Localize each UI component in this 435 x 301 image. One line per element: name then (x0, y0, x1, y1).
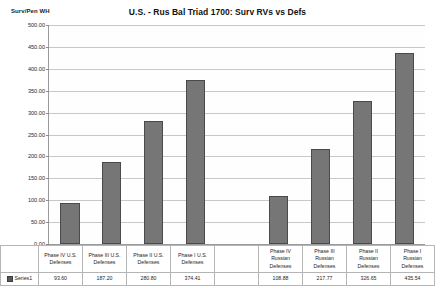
bar-slot (133, 25, 175, 244)
y-axis-tick-label: 100.00 (28, 197, 45, 203)
y-axis-tick-label: 200.00 (28, 153, 45, 159)
chart-title: U.S. - Rus Bal Triad 1700: Surv RVs vs D… (0, 7, 435, 17)
bar-slot (216, 25, 258, 244)
table-category-cell (215, 246, 259, 273)
table-value-cell: 108.88 (259, 273, 303, 286)
table-category-cell: Phase IVRussianDefenses (259, 246, 303, 273)
bar[interactable] (102, 162, 121, 244)
table-category-cell: Phase IV U.S.Defenses (39, 246, 83, 273)
bar[interactable] (60, 203, 79, 244)
y-axis-tick-label: 450.00 (28, 44, 45, 50)
table-value-cell: 374.41 (171, 273, 215, 286)
y-axis-tick-label: 250.00 (28, 132, 45, 138)
table-value-cell: 187.20 (83, 273, 127, 286)
plot-area: 0.0050.00100.00150.00200.00250.00300.003… (48, 25, 425, 245)
table-value-cell: 326.65 (347, 273, 391, 286)
table-category-cell: Phase III U.S.Defenses (83, 246, 127, 273)
table-category-cell: Phase II U.S.Defenses (127, 246, 171, 273)
bar-slot (341, 25, 383, 244)
table-category-cell: Phase IIIRussianDefenses (303, 246, 347, 273)
table-value-cell: 280.80 (127, 273, 171, 286)
bar-slot (91, 25, 133, 244)
bar[interactable] (395, 53, 414, 244)
bar[interactable] (353, 101, 372, 244)
y-axis-tick-label: 150.00 (28, 175, 45, 181)
bar[interactable] (144, 121, 163, 244)
y-axis-tick-label: 300.00 (28, 110, 45, 116)
table-row-values: Series1 93.60187.20280.80374.41108.88217… (1, 273, 435, 286)
bar[interactable] (269, 196, 288, 244)
bar-series (49, 25, 425, 244)
chart-container: Surv/Pen WH U.S. - Rus Bal Triad 1700: S… (0, 0, 435, 301)
y-axis-tick-label: 400.00 (28, 66, 45, 72)
legend-series1: Series1 (1, 273, 39, 286)
bar[interactable] (311, 149, 330, 244)
y-axis-tick-label: 500.00 (28, 22, 45, 28)
table-value-cell (215, 273, 259, 286)
table-value-cell: 435.54 (391, 273, 435, 286)
table-value-cell: 217.77 (303, 273, 347, 286)
y-axis-tick-label: 50.00 (31, 219, 45, 225)
bar[interactable] (186, 80, 205, 244)
bar-slot (49, 25, 91, 244)
table-category-cell: Phase I U.S.Defenses (171, 246, 215, 273)
table-category-cell: Phase IRussianDefenses (391, 246, 435, 273)
chart-data-table: Phase IV U.S.DefensesPhase III U.S.Defen… (0, 245, 435, 286)
table-category-cell: Phase IIRussianDefenses (347, 246, 391, 273)
table-row-categories: Phase IV U.S.DefensesPhase III U.S.Defen… (1, 246, 435, 273)
table-corner-cell (1, 246, 39, 273)
legend-swatch-icon (7, 276, 13, 282)
bar-slot (300, 25, 342, 244)
bar-slot (174, 25, 216, 244)
y-axis-tick-label: 350.00 (28, 88, 45, 94)
bar-slot (258, 25, 300, 244)
bar-slot (383, 25, 425, 244)
legend-series-label: Series1 (14, 276, 32, 282)
table-value-cell: 93.60 (39, 273, 83, 286)
